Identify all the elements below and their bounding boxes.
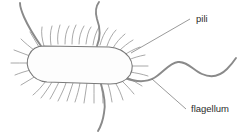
label-flagellum: flagellum: [191, 103, 229, 114]
pilus: [67, 83, 73, 101]
flagellum-main-right: [125, 58, 236, 81]
pilus: [86, 27, 91, 44]
diagram-canvas: pili flagellum: [0, 0, 243, 134]
bacteria-diagram: pili flagellum: [0, 0, 243, 134]
pilus: [50, 82, 59, 99]
flagellum-upper-middle: [96, 2, 100, 46]
pilus: [108, 84, 112, 102]
pilus: [14, 50, 30, 56]
pilus: [33, 81, 46, 95]
pilus: [100, 28, 108, 45]
pilus: [72, 25, 76, 44]
pilus: [113, 34, 125, 48]
pilus: [84, 83, 87, 103]
leader-line-flagellum: [152, 79, 186, 109]
flagellum-upper-left: [20, 3, 41, 46]
pilus: [130, 72, 148, 76]
pilus: [41, 82, 52, 98]
label-pili: pili: [196, 13, 208, 24]
pilus: [50, 26, 52, 45]
pilus: [107, 30, 116, 46]
pilus: [58, 83, 66, 101]
pilus: [42, 27, 44, 46]
pilus: [58, 25, 60, 44]
pilus: [75, 83, 80, 102]
pilus: [65, 26, 69, 44]
pilus: [119, 40, 133, 51]
pilus: [21, 39, 34, 50]
pilus: [15, 70, 31, 75]
pilus: [79, 26, 84, 44]
pilus: [116, 84, 123, 100]
leader-line-pili: [131, 19, 190, 53]
bacterial-cell-body: [27, 46, 132, 84]
flagellum-lower: [98, 84, 105, 131]
pilus: [122, 81, 134, 94]
